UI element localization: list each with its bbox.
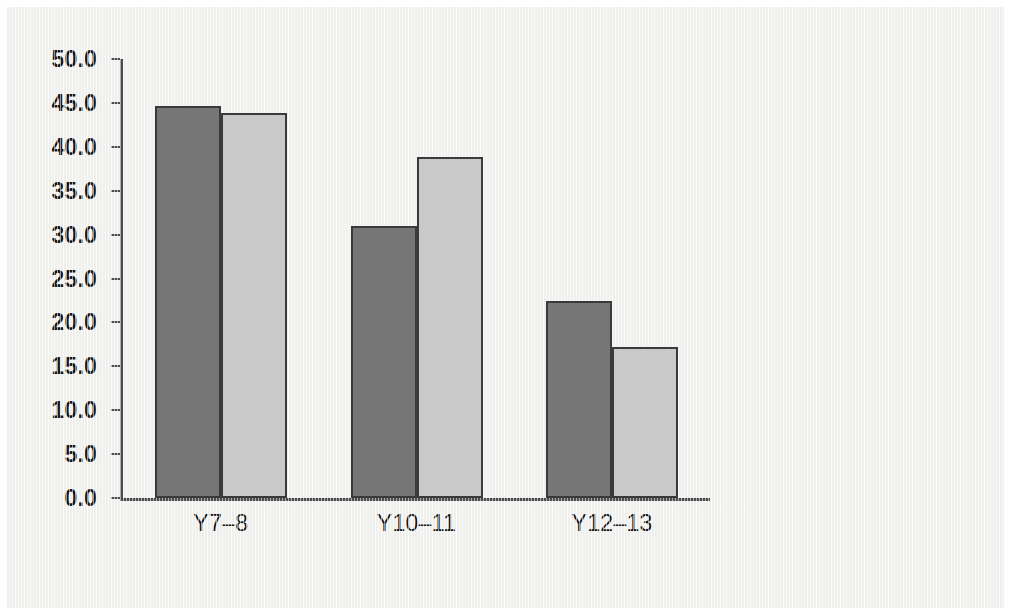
y-axis-tick-label: 15.0 <box>21 353 97 380</box>
y-axis-tick-label: 20.0 <box>21 309 97 336</box>
y-axis-tick: 0.0 <box>111 497 120 499</box>
bar <box>155 106 221 498</box>
y-axis-tick: 45.0 <box>111 102 120 104</box>
y-axis-tick-label: 10.0 <box>21 397 97 424</box>
x-axis-line <box>120 498 710 501</box>
y-axis-tick-label: 45.0 <box>21 90 97 117</box>
y-axis-tick: 15.0 <box>111 365 120 367</box>
bar <box>417 157 483 498</box>
bar <box>612 347 678 498</box>
y-axis-tick: 30.0 <box>111 234 120 236</box>
y-axis-tick-label: 25.0 <box>21 266 97 293</box>
x-axis-category-label: Y12–13 <box>572 510 653 537</box>
y-axis-tick-label: 0.0 <box>21 485 97 512</box>
y-axis-tick-label: 50.0 <box>21 46 97 73</box>
bar <box>546 301 612 498</box>
page-margin-top <box>0 0 1011 7</box>
y-axis-tick: 5.0 <box>111 453 120 455</box>
page-margin-right <box>1004 0 1011 615</box>
y-axis-tick-label: 5.0 <box>21 441 97 468</box>
y-axis-tick-label: 30.0 <box>21 222 97 249</box>
page-margin-left <box>0 0 7 615</box>
bars-layer <box>123 59 710 498</box>
y-axis-tick: 10.0 <box>111 409 120 411</box>
y-axis-tick-label: 35.0 <box>21 178 97 205</box>
x-axis-category-label: Y10–11 <box>377 510 456 537</box>
x-axis-category-label: Y7–8 <box>193 510 248 537</box>
y-axis-tick: 35.0 <box>111 190 120 192</box>
bar <box>351 226 417 498</box>
y-axis-tick: 20.0 <box>111 321 120 323</box>
y-axis-tick: 50.0 <box>111 58 120 60</box>
page-margin-bottom <box>0 608 1011 615</box>
y-axis-tick-label: 40.0 <box>21 134 97 161</box>
x-axis-category-labels: Y7–8Y10–11Y12–13 <box>120 510 710 550</box>
plot-area: 50.045.040.035.030.025.020.015.010.05.00… <box>120 59 710 498</box>
chart-figure: 50.045.040.035.030.025.020.015.010.05.00… <box>0 0 1011 615</box>
bar <box>221 113 287 498</box>
y-axis-tick: 25.0 <box>111 278 120 280</box>
y-axis-tick: 40.0 <box>111 146 120 148</box>
